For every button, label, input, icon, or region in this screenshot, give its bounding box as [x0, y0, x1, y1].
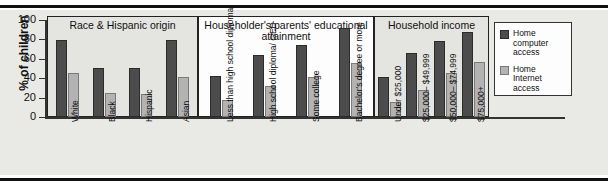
x-category-label: High school diploma/ GED [269, 70, 278, 122]
x-axis-line [45, 117, 565, 119]
x-category-label: $75,000+ [477, 70, 486, 122]
x-category-label: Black [108, 70, 117, 122]
legend-label: Homecomputeraccess [513, 29, 548, 58]
bar [406, 53, 417, 117]
bottom-rule [0, 178, 608, 181]
x-category-label: Bachelor's degree or more [355, 70, 364, 122]
bar [129, 68, 140, 117]
y-tick-label: 80 [0, 32, 36, 44]
x-category-label: Asian [182, 70, 191, 122]
chart-legend: Homecomputeraccess HomeInternetaccess [494, 22, 572, 96]
legend-swatch-light-icon [500, 66, 509, 75]
x-category-label: Hispanic [145, 70, 154, 122]
x-category-label: Less than high school diploma [226, 70, 235, 122]
bar [93, 68, 104, 117]
x-category-label: Some college [312, 70, 321, 122]
y-tick-label: 100 [0, 13, 36, 25]
bar [462, 32, 473, 117]
bar [378, 77, 389, 117]
bar [56, 40, 67, 117]
bar [210, 76, 221, 117]
legend-item-home-internet-access: HomeInternetaccess [500, 65, 566, 94]
x-category-label: White [71, 70, 80, 122]
legend-label: HomeInternetaccess [513, 65, 542, 94]
bars-area [45, 20, 565, 117]
bar [253, 55, 264, 117]
top-rule [0, 5, 608, 8]
legend-item-home-computer-access: Homecomputeraccess [500, 29, 566, 58]
x-category-label: $25,000– $49,999 [422, 70, 431, 122]
y-tick [39, 117, 46, 118]
x-category-label: Under $25,000 [394, 70, 403, 122]
y-tick-label: 60 [0, 52, 36, 64]
legend-swatch-dark-icon [500, 30, 509, 39]
bar [434, 41, 445, 117]
y-tick-label: 40 [0, 71, 36, 83]
chart-figure: % of children 020406080100 Race & Hispan… [0, 0, 608, 196]
x-category-label: $50,000– $74,999 [449, 70, 458, 122]
y-tick-label: 20 [0, 91, 36, 103]
y-tick-label: 0 [0, 110, 36, 122]
bar [339, 28, 350, 117]
bar [166, 40, 177, 117]
bar [296, 45, 307, 117]
